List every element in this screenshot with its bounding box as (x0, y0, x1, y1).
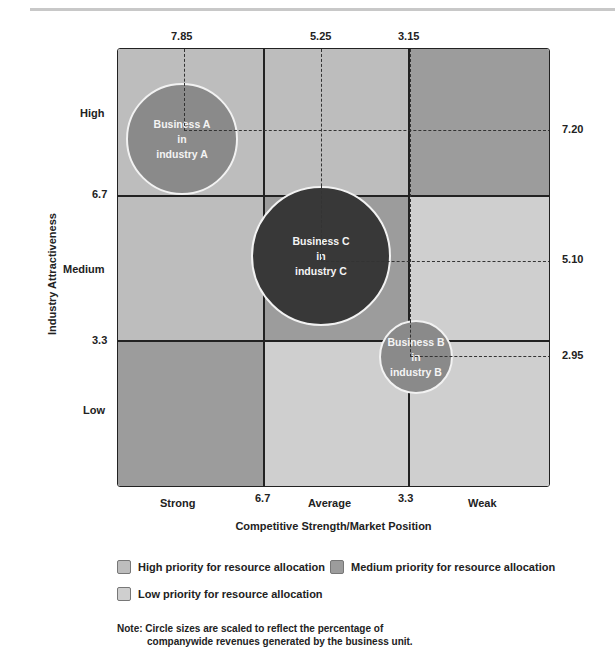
y-category-low: Low (83, 404, 105, 416)
cell-medium-strong (118, 196, 264, 341)
grid-line-y-3.3 (118, 340, 550, 342)
y-boundary-lower: 3.3 (92, 334, 107, 346)
matrix-grid: Business A in industry A Business C in i… (117, 48, 550, 487)
guide-b-horizontal (410, 356, 550, 357)
y-boundary-upper: 6.7 (92, 188, 107, 200)
guide-c-horizontal (321, 261, 550, 262)
right-tick-c: 5.10 (562, 253, 583, 265)
x-axis-label: Competitive Strength/Market Position (117, 520, 550, 532)
x-boundary-right: 3.3 (398, 492, 413, 504)
legend-label-high: High priority for resource allocation (138, 561, 325, 573)
note-label: Note: (117, 623, 143, 634)
guide-c-vertical-overlay (321, 186, 322, 262)
legend-label-low: Low priority for resource allocation (138, 588, 323, 600)
x-boundary-left: 6.7 (255, 492, 270, 504)
cell-low-strong (118, 341, 264, 487)
guide-a-vertical-overlay (184, 83, 185, 131)
top-rule (30, 8, 615, 11)
x-category-average: Average (308, 497, 351, 509)
bubble-business-b: Business B in industry B (379, 320, 453, 394)
bubble-a-line2: in (177, 132, 186, 147)
guide-b-vertical-overlay (410, 320, 411, 357)
bubble-b-line3: industry B (390, 365, 442, 380)
cell-high-average (264, 49, 409, 196)
y-category-medium: Medium (63, 263, 105, 275)
cell-high-weak (409, 49, 550, 196)
bubble-b-line2: in (411, 350, 420, 365)
x-category-weak: Weak (468, 497, 497, 509)
bubble-c-line3: industry C (295, 264, 347, 279)
y-axis-label: Industry Attractiveness (46, 204, 58, 344)
bubble-a-line3: industry A (156, 147, 208, 162)
guide-a-horizontal (184, 130, 550, 131)
legend-high-priority: High priority for resource allocation (117, 560, 325, 574)
legend-label-medium: Medium priority for resource allocation (351, 561, 555, 573)
y-category-high: High (80, 107, 104, 119)
legend-swatch-high (117, 560, 131, 574)
legend-swatch-medium (330, 560, 344, 574)
note-line1: Circle sizes are scaled to reflect the p… (145, 623, 383, 634)
top-tick-b: 3.15 (398, 30, 419, 42)
top-tick-c: 5.25 (310, 30, 331, 42)
guide-b-vertical (410, 49, 411, 357)
legend-medium-priority: Medium priority for resource allocation (330, 560, 555, 574)
cell-medium-weak (409, 196, 550, 341)
legend-low-priority: Low priority for resource allocation (117, 587, 323, 601)
legend-swatch-low (117, 587, 131, 601)
footnote: Note: Circle sizes are scaled to reflect… (117, 622, 413, 648)
bubble-b-line1: Business B (387, 335, 444, 350)
top-tick-a: 7.85 (171, 30, 192, 42)
right-tick-b: 2.95 (562, 349, 583, 361)
note-line2: companywide revenues generated by the bu… (117, 635, 413, 648)
bubble-business-a: Business A in industry A (126, 83, 238, 195)
x-category-strong: Strong (160, 497, 195, 509)
right-tick-a: 7.20 (562, 123, 583, 135)
